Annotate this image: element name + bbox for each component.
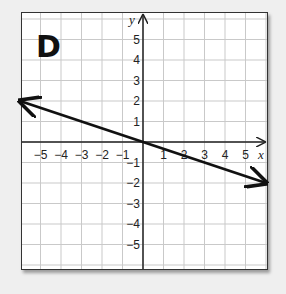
x-tick-label: −4: [54, 148, 68, 162]
y-tick-label: 1: [133, 115, 140, 129]
y-tick-label: 3: [133, 74, 140, 88]
y-tick-label: −4: [126, 217, 140, 231]
y-tick-label: 2: [133, 94, 140, 108]
x-tick-label: 4: [222, 148, 229, 162]
x-tick-label: 5: [242, 148, 249, 162]
panel-label: D: [36, 29, 61, 64]
y-tick-label: −2: [126, 176, 140, 190]
y-tick-label: 5: [133, 33, 140, 47]
x-tick-label: −5: [34, 148, 48, 162]
y-axis-label: y: [127, 12, 135, 27]
y-tick-label: −3: [126, 197, 140, 211]
x-tick-label: −3: [75, 148, 89, 162]
coordinate-plane: −5−4−3−2−11234554321−1−2−3−4−5 D x y: [0, 0, 286, 294]
x-tick-label: −2: [95, 148, 109, 162]
y-tick-label: 4: [133, 53, 140, 67]
y-tick-label: −5: [126, 238, 140, 252]
x-tick-label: 3: [201, 148, 208, 162]
y-tick-label: −1: [126, 156, 140, 170]
x-axis-label: x: [257, 147, 264, 162]
